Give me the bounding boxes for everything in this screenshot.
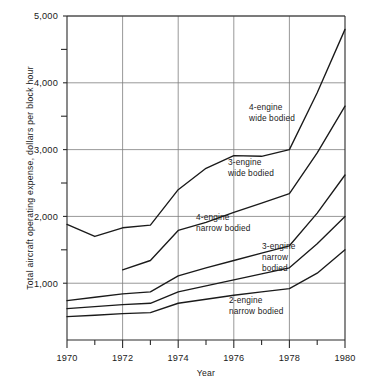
annotation-line: 3-engine xyxy=(262,241,296,251)
y-axis-tick-labels: 1,0002,0003,0004,0005,000 xyxy=(34,11,58,288)
y-tick-label: 2,000 xyxy=(34,212,58,222)
annotation-line: 2-engine xyxy=(229,295,263,305)
y-tick-label: 4,000 xyxy=(34,78,58,88)
chart-figure: 1,0002,0003,0004,0005,000 19701972197419… xyxy=(0,0,366,391)
x-axis-tick-labels: 197019721974197619781980 xyxy=(56,353,355,363)
ann-4-wide: 4-enginewide bodied xyxy=(248,102,295,123)
x-tick-label: 1978 xyxy=(279,353,300,363)
gridlines xyxy=(67,16,345,340)
y-axis-title: Total aircraft operating expense, dollar… xyxy=(25,66,35,290)
y-tick-label: 3,000 xyxy=(34,145,58,155)
annotation-line: 4-engine xyxy=(196,212,230,222)
series-lines xyxy=(67,29,345,316)
y-tick-label: 5,000 xyxy=(34,11,58,21)
x-tick-label: 1972 xyxy=(112,353,133,363)
y-tick-label: 1,000 xyxy=(34,279,58,289)
x-axis-title: Year xyxy=(197,368,216,378)
annotation-line: wide bodied xyxy=(248,113,295,123)
ann-3-narrow: 3-enginenarrowbodied xyxy=(262,241,296,273)
x-tick-label: 1980 xyxy=(334,353,355,363)
annotation-line: wide bodied xyxy=(227,168,274,178)
annotation-line: narrow bodied xyxy=(229,306,284,316)
plot-frame xyxy=(67,16,345,340)
annotation-line: 4-engine xyxy=(249,102,283,112)
series-line-2 xyxy=(67,175,345,301)
annotation-line: bodied xyxy=(262,263,288,273)
major-tick-marks xyxy=(63,16,345,348)
x-tick-label: 1970 xyxy=(56,353,77,363)
ann-2-narrow: 2-enginenarrow bodied xyxy=(229,295,284,316)
annotation-line: 3-engine xyxy=(228,157,262,167)
annotation-line: narrow xyxy=(262,252,289,262)
ann-3-wide: 3-enginewide bodied xyxy=(227,157,274,178)
x-tick-label: 1976 xyxy=(223,353,244,363)
x-tick-label: 1974 xyxy=(168,353,189,363)
annotation-line: narrow bodied xyxy=(196,223,251,233)
series-line-0 xyxy=(67,29,345,236)
line-chart-svg: 1,0002,0003,0004,0005,000 19701972197419… xyxy=(0,0,366,391)
ann-4-narrow: 4-enginenarrow bodied xyxy=(196,212,251,233)
